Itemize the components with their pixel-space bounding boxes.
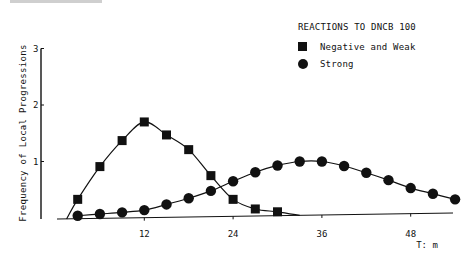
circle-data-point bbox=[184, 193, 194, 203]
y-tick-label: 2 bbox=[33, 100, 38, 110]
x-axis-label: T: m bbox=[416, 240, 438, 250]
circle-data-point bbox=[139, 205, 149, 215]
circle-data-point bbox=[95, 209, 105, 219]
circle-data-point bbox=[250, 167, 260, 177]
circle-data-point bbox=[339, 161, 349, 171]
square-data-point bbox=[184, 145, 193, 154]
square-data-point bbox=[229, 195, 238, 204]
circle-data-point bbox=[206, 186, 216, 196]
square-data-point bbox=[251, 204, 260, 213]
square-data-point bbox=[140, 117, 149, 126]
circle-data-point bbox=[228, 176, 238, 186]
circle-data-point bbox=[73, 211, 83, 221]
square-data-point bbox=[73, 195, 82, 204]
circle-data-point bbox=[383, 175, 393, 185]
x-tick-label: 48 bbox=[405, 229, 416, 239]
y-tick-label: 3 bbox=[33, 44, 38, 54]
x-axis-line bbox=[57, 213, 453, 219]
circle-data-point bbox=[450, 194, 460, 204]
plot-area: 12312243648T: m bbox=[0, 0, 471, 260]
circle-data-point bbox=[361, 168, 371, 178]
circle-data-point bbox=[272, 160, 282, 170]
square-data-point bbox=[162, 130, 171, 139]
x-tick-label: 24 bbox=[228, 229, 239, 239]
circle-data-point bbox=[428, 189, 438, 199]
circle-data-point bbox=[117, 207, 127, 217]
square-data-point bbox=[95, 162, 104, 171]
x-tick-label: 12 bbox=[139, 229, 150, 239]
strong-line bbox=[78, 161, 455, 216]
square-data-point bbox=[273, 207, 282, 216]
x-tick-label: 36 bbox=[316, 229, 327, 239]
square-data-point bbox=[118, 136, 127, 145]
circle-data-point bbox=[161, 199, 171, 209]
circle-data-point bbox=[295, 156, 305, 166]
circle-data-point bbox=[406, 183, 416, 193]
y-tick-label: 1 bbox=[33, 157, 38, 167]
circle-data-point bbox=[317, 156, 327, 166]
square-data-point bbox=[206, 171, 215, 180]
